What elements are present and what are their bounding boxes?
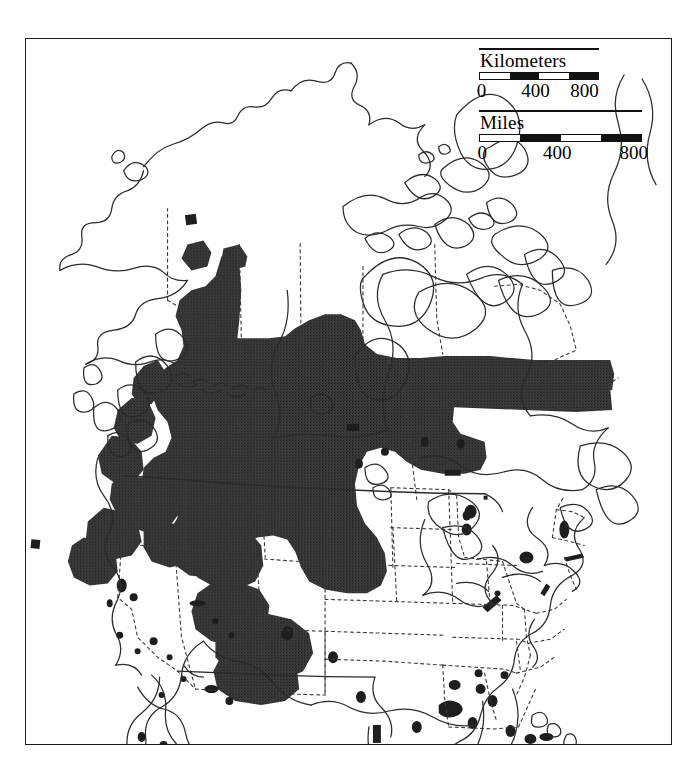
scale-km-tick-0: 0 xyxy=(477,80,487,102)
scale-km-tick-1: 400 xyxy=(521,80,550,102)
scale-mi-title: Miles xyxy=(479,112,642,133)
scale-mi-segment-3 xyxy=(561,135,601,141)
scale-bar-miles: Miles 0 400 800 xyxy=(479,110,642,164)
scale-km-ticks: 0 400 800 xyxy=(479,80,599,102)
scale-mi-segment-1 xyxy=(480,135,520,141)
scale-km-segment-4 xyxy=(569,73,599,79)
scale-mi-bar xyxy=(479,134,642,142)
map-figure: Kilometers 0 400 800 Miles 0 400 800 xyxy=(0,0,691,766)
scale-mi-segment-2 xyxy=(520,135,560,141)
scale-km-tick-2: 800 xyxy=(570,80,599,102)
scale-mi-segment-4 xyxy=(601,135,641,141)
scale-km-title: Kilometers xyxy=(479,50,599,71)
scale-km-bar xyxy=(479,72,599,80)
scale-km-segment-3 xyxy=(539,73,569,79)
scale-mi-tick-2: 800 xyxy=(620,142,649,164)
scale-bar-kilometers: Kilometers 0 400 800 xyxy=(479,48,599,102)
scale-mi-tick-0: 0 xyxy=(478,142,488,164)
scale-km-segment-2 xyxy=(510,73,540,79)
scale-km-segment-1 xyxy=(480,73,510,79)
scale-mi-tick-1: 400 xyxy=(543,142,572,164)
scale-mi-ticks: 0 400 800 xyxy=(479,142,642,164)
